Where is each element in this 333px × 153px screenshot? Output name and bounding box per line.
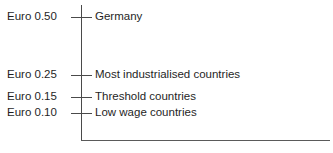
axis-tick — [71, 97, 92, 98]
category-label: Germany — [95, 11, 142, 23]
value-label: Euro 0.50 — [7, 11, 69, 23]
value-label: Euro 0.25 — [7, 69, 69, 81]
axis-tick — [71, 17, 92, 18]
axis-tick — [71, 113, 92, 114]
category-label: Most industrialised countries — [95, 69, 240, 81]
horizontal-axis — [81, 140, 330, 141]
value-label: Euro 0.10 — [7, 107, 69, 119]
axis-tick — [71, 75, 92, 76]
value-label: Euro 0.15 — [7, 91, 69, 103]
wage-scale-chart: Euro 0.50 Germany Euro 0.25 Most industr… — [0, 0, 333, 153]
vertical-axis — [81, 5, 82, 141]
category-label: Threshold countries — [95, 91, 196, 103]
category-label: Low wage countries — [95, 107, 197, 119]
